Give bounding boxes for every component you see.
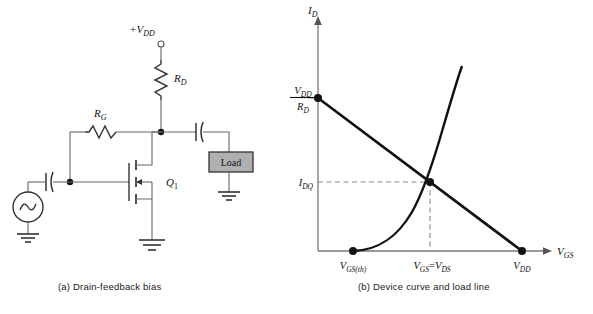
- panel-a-circuit: Load +VDD RD RG Q1: [13, 23, 253, 250]
- load-line-x-intercept-dot: [518, 247, 526, 255]
- input-coupling-capacitor: [46, 172, 53, 192]
- y-tick-vdd-over-rd-denominator: RD: [296, 101, 309, 115]
- x-tick-vgs-th-label: VGS(th): [340, 260, 367, 274]
- drain-resistor-label: RD: [173, 72, 187, 87]
- ground-load: [218, 192, 240, 200]
- y-tick-vdd-over-rd-numerator: VDD: [294, 85, 312, 99]
- panel-b-caption: (b) Device curve and load line: [358, 281, 490, 292]
- supply-terminal-circle: [158, 41, 164, 47]
- x-tick-vgs-equals-vds-label: VGS=VDS: [413, 260, 450, 274]
- figure-container: Load +VDD RD RG Q1: [0, 0, 593, 314]
- load-block-label: Load: [221, 157, 242, 168]
- y-axis-label: ID: [307, 4, 318, 19]
- y-tick-idq-label: IDQ: [298, 177, 314, 191]
- mosfet-body-arrow: [136, 179, 142, 185]
- mosfet-source-lead: [136, 182, 152, 199]
- x-tick-vdd-label: VDD: [513, 260, 531, 274]
- supply-label: +VDD: [129, 23, 155, 38]
- output-coupling-capacitor: [196, 122, 203, 142]
- y-tick-vdd-over-rd: VDD RD: [290, 85, 316, 115]
- device-transfer-curve: [353, 66, 462, 251]
- gate-resistor-symbol: [85, 126, 116, 138]
- drain-resistor-symbol: [155, 60, 167, 100]
- threshold-point-dot: [349, 247, 357, 255]
- panel-a-caption: (a) Drain-feedback bias: [58, 281, 161, 292]
- x-axis-label: VGS: [557, 245, 574, 260]
- q-point-dot: [426, 178, 434, 186]
- mosfet-drain-lead: [136, 132, 152, 165]
- figure-svg: Load +VDD RD RG Q1: [0, 0, 593, 314]
- ground-mosfet: [139, 240, 165, 250]
- load-line: [318, 98, 522, 251]
- panel-b-chart: ID VGS VDD RD IDQ VGS(th): [290, 4, 574, 274]
- gate-resistor-label: RG: [93, 107, 107, 122]
- x-axis-arrowhead: [543, 247, 552, 255]
- wire-output-cap-to-load: [203, 132, 229, 152]
- mosfet-label: Q1: [166, 176, 178, 191]
- ground-source: [17, 234, 39, 242]
